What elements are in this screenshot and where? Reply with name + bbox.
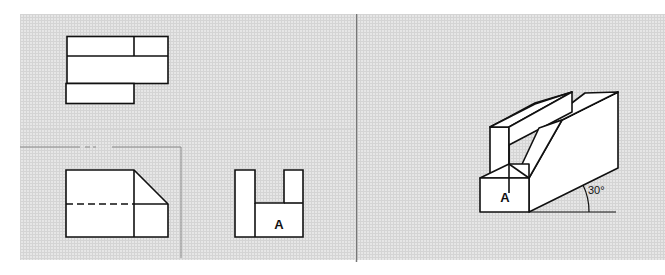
isometric-face-label: A <box>500 190 510 205</box>
side-view <box>235 170 303 237</box>
top-view <box>66 37 168 104</box>
angle-label: 30° <box>588 184 605 196</box>
drawing-canvas: A A 30° <box>0 0 665 275</box>
front-view <box>66 170 168 237</box>
side-view-face-label: A <box>274 217 284 232</box>
